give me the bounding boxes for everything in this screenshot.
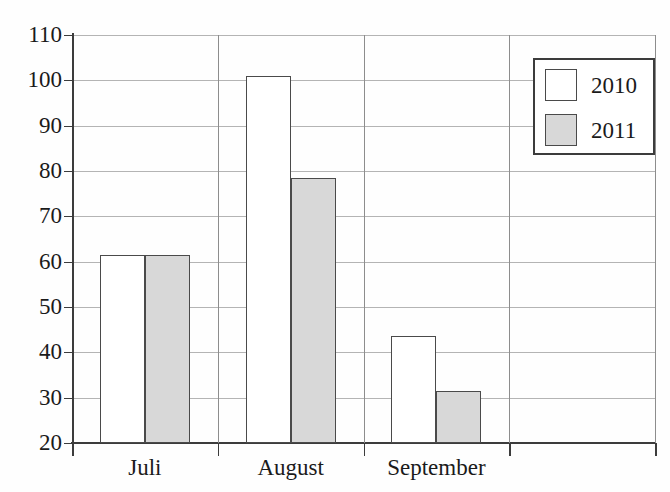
y-axis-tick-label: 110	[6, 23, 62, 46]
legend: 2010 2011	[533, 58, 655, 155]
y-tick-mark	[64, 262, 73, 263]
x-axis-tick-label: Juli	[72, 455, 218, 481]
bar-Juli-2010	[100, 255, 145, 443]
y-tick-mark	[64, 171, 73, 172]
bar-chart: 1101009080706050403020 JuliAugustSeptemb…	[0, 0, 670, 492]
legend-swatch-2011	[545, 114, 577, 146]
y-axis-labels: 1101009080706050403020	[0, 0, 62, 492]
category-divider	[364, 35, 365, 443]
legend-item-2010: 2010	[545, 66, 649, 104]
y-tick-mark	[64, 398, 73, 399]
y-axis-tick-label: 100	[6, 68, 62, 91]
y-tick-mark	[64, 307, 73, 308]
y-axis-tick-label: 40	[6, 340, 62, 363]
bar-August-2010	[246, 76, 291, 443]
x-axis-tick-label: September	[364, 455, 510, 481]
y-tick-mark	[64, 126, 73, 127]
legend-label-2011: 2011	[591, 119, 636, 142]
x-tick-mark	[509, 443, 511, 456]
y-axis-tick-label: 70	[6, 204, 62, 227]
x-axis-tick-label: August	[218, 455, 364, 481]
y-axis-tick-label: 30	[6, 386, 62, 409]
y-tick-mark	[64, 352, 73, 353]
y-axis-tick-label: 60	[6, 250, 62, 273]
bar-August-2011	[291, 178, 336, 443]
x-tick-mark	[655, 443, 657, 456]
y-tick-mark	[64, 216, 73, 217]
y-axis-tick-label: 90	[6, 114, 62, 137]
bar-September-2010	[391, 336, 436, 443]
y-tick-mark	[64, 35, 73, 36]
bar-September-2011	[436, 391, 481, 443]
x-tick-mark	[218, 443, 220, 456]
legend-swatch-2010	[545, 69, 577, 101]
legend-item-2011: 2011	[545, 111, 649, 149]
legend-label-2010: 2010	[591, 74, 637, 97]
y-axis-tick-label: 80	[6, 159, 62, 182]
y-axis-line	[72, 33, 74, 445]
y-axis-tick-label: 20	[6, 431, 62, 454]
x-tick-mark	[72, 443, 74, 456]
y-axis-tick-label: 50	[6, 295, 62, 318]
y-tick-mark	[64, 80, 73, 81]
category-divider	[655, 35, 656, 443]
x-tick-mark	[364, 443, 366, 456]
category-divider	[509, 35, 510, 443]
category-divider	[218, 35, 219, 443]
bar-Juli-2011	[145, 255, 190, 443]
